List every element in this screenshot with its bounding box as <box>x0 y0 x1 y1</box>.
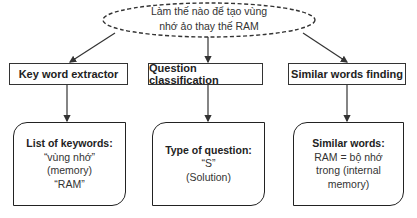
similar-words-finding-label: Similar words finding <box>291 68 403 80</box>
question-type-line: (Solution) <box>186 171 231 185</box>
question-type-heading: Type of question: <box>165 144 252 158</box>
similar-words-finding-box: Similar words finding <box>288 63 406 85</box>
keywords-line: “RAM” <box>54 178 84 192</box>
keyword-extractor-box: Key word extractor <box>9 63 128 85</box>
keyword-extractor-label: Key word extractor <box>19 68 119 80</box>
similar-words-heading: Similar words: <box>312 137 384 151</box>
question-classification-box: Question classification <box>148 63 263 85</box>
similar-words-line: trong (internal <box>316 164 381 178</box>
question-line-1: Làm thế nào để tạo vùng <box>110 4 308 19</box>
keywords-heading: List of keywords: <box>26 137 112 151</box>
similar-words-line: RAM = bộ nhớ <box>314 151 382 165</box>
keywords-line: (memory) <box>47 164 92 178</box>
question-text: Làm thế nào để tạo vùng nhớ ảo thay thế … <box>110 4 308 34</box>
arrow-to-keyword-extractor <box>70 33 115 62</box>
arrow-to-similar-words <box>303 33 347 62</box>
keywords-line: “vùng nhớ” <box>44 151 95 165</box>
question-type-result-box: Type of question: “S” (Solution) <box>152 122 265 206</box>
similar-words-result-box: Similar words: RAM = bộ nhớ trong (inter… <box>293 122 404 206</box>
keywords-result-box: List of keywords: “vùng nhớ” (memory) “R… <box>13 122 126 206</box>
similar-words-line: memory) <box>328 178 369 192</box>
question-type-line: “S” <box>202 157 216 171</box>
question-classification-label: Question classification <box>149 62 262 86</box>
question-line-2: nhớ ảo thay thế RAM <box>110 19 308 34</box>
